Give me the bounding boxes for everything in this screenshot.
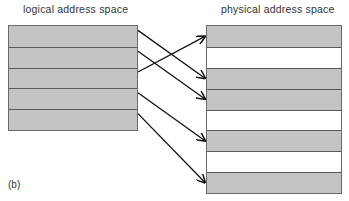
figure-label: (b) — [8, 179, 20, 190]
arrow-logical-3-to-physical-5 — [138, 93, 205, 141]
arrow-logical-2-to-physical-0 — [138, 36, 205, 72]
arrow-logical-1-to-physical-3 — [138, 51, 205, 99]
arrow-logical-4-to-physical-7 — [138, 114, 205, 183]
mapping-arrows — [0, 0, 349, 201]
